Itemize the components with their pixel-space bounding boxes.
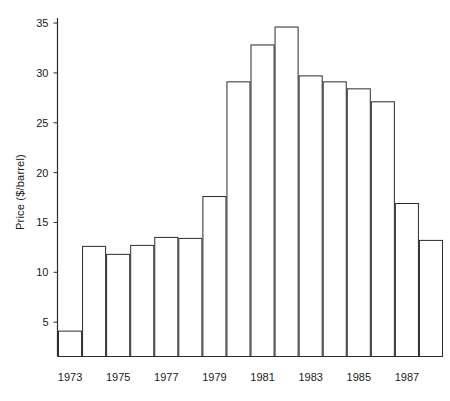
x-tick-label: 1983 bbox=[298, 371, 322, 383]
bar bbox=[83, 246, 106, 356]
bar bbox=[251, 45, 274, 357]
bar bbox=[371, 102, 394, 357]
y-tick-label: 5 bbox=[42, 316, 48, 328]
y-axis-tick-labels: 5101520253035 bbox=[36, 17, 48, 328]
bar-series bbox=[59, 27, 443, 356]
y-tick-label: 15 bbox=[36, 216, 48, 228]
bar bbox=[347, 89, 370, 357]
x-tick-label: 1985 bbox=[347, 371, 371, 383]
bar bbox=[299, 76, 322, 357]
bar bbox=[203, 197, 226, 357]
y-tick-label: 30 bbox=[36, 67, 48, 79]
y-tick-label: 25 bbox=[36, 117, 48, 129]
bar bbox=[227, 82, 250, 357]
x-tick-label: 1987 bbox=[395, 371, 419, 383]
y-axis-title: Price ($/barrel) bbox=[14, 154, 26, 230]
bar bbox=[395, 204, 418, 357]
bar bbox=[59, 331, 82, 356]
x-tick-label: 1981 bbox=[250, 371, 274, 383]
bar bbox=[419, 240, 442, 356]
bar bbox=[275, 27, 298, 356]
y-tick-label: 10 bbox=[36, 266, 48, 278]
bar bbox=[155, 237, 178, 356]
x-tick-label: 1975 bbox=[106, 371, 130, 383]
x-tick-label: 1979 bbox=[202, 371, 226, 383]
x-axis-tick-labels: 19731975197719791981198319851987 bbox=[58, 371, 419, 383]
bar bbox=[131, 245, 154, 356]
bar bbox=[179, 238, 202, 356]
x-tick-label: 1973 bbox=[58, 371, 82, 383]
y-tick-label: 35 bbox=[36, 17, 48, 29]
bar bbox=[107, 254, 130, 356]
x-tick-label: 1977 bbox=[154, 371, 178, 383]
oil-price-bar-chart: Price ($/barrel) 5101520253035 197319751… bbox=[0, 0, 450, 401]
chart-plot-area: 5101520253035 19731975197719791981198319… bbox=[0, 0, 450, 401]
y-tick-label: 20 bbox=[36, 167, 48, 179]
bar bbox=[323, 82, 346, 357]
